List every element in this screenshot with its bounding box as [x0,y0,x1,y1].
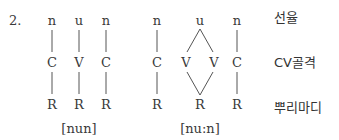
skeleton-slot: V [209,56,218,69]
root-node: R [47,98,57,111]
tier-label-melody: 선율 [274,11,298,24]
skeleton-slot: C [232,56,242,69]
melody-segment: n [102,14,110,27]
skeleton-slot: V [74,56,83,69]
skeleton-slot: C [152,56,162,69]
root-node: R [195,98,205,111]
skeleton-slot: C [101,56,111,69]
melody-segment: n [48,14,56,27]
melody-segment: n [153,14,161,27]
tier-label-root: 뿌리마디 [274,101,322,114]
skeleton-slot: V [181,56,190,69]
melody-segment: n [233,14,241,27]
transcription: [nun] [61,122,96,135]
root-node: R [74,98,84,111]
melody-segment: u [75,14,83,27]
root-node: R [101,98,111,111]
melody-segment: u [196,14,204,27]
root-node: R [152,98,162,111]
skeleton-slot: C [47,56,57,69]
transcription: [nu:n] [180,122,220,135]
tier-label-skeleton: CV골격 [274,56,316,69]
root-node: R [232,98,242,111]
